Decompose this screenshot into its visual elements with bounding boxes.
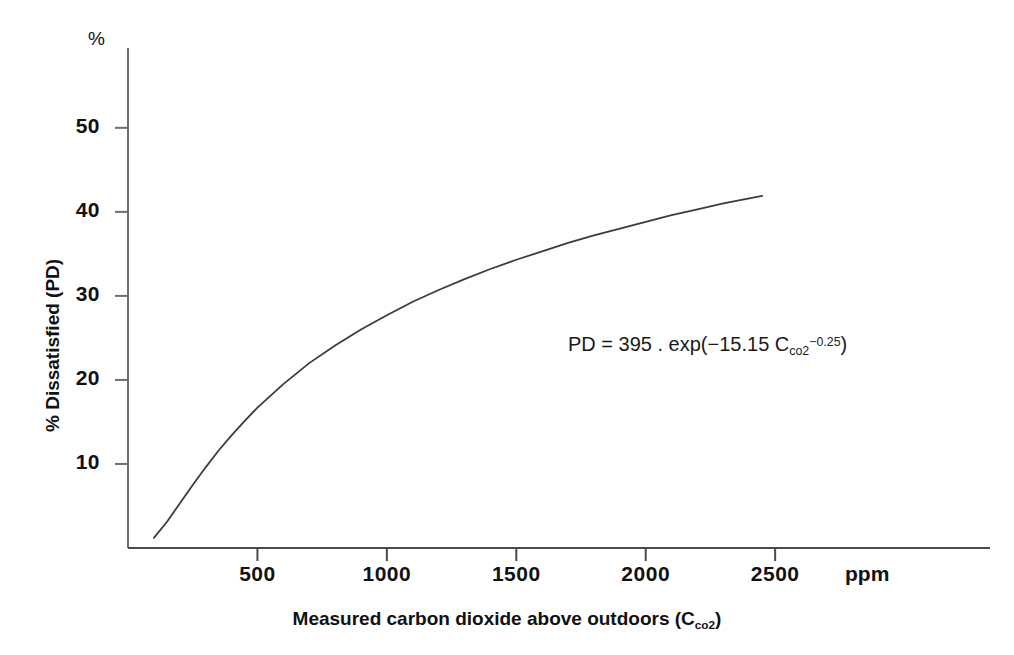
x-axis-title-main: Measured carbon dioxide above outdoors (… [293, 608, 695, 629]
y-axis-tick-marks [115, 128, 128, 464]
x-tick-label: 2000 [586, 562, 706, 586]
x-axis-title-subscript: co2 [695, 618, 715, 631]
x-tick-label: 1500 [456, 562, 576, 586]
x-tick-label: 2500 [715, 562, 835, 586]
equation-annotation: PD = 395 . exp(−15.15 Cco2−0.25) [568, 333, 847, 358]
x-axis-unit-label: ppm [845, 562, 889, 586]
chart-figure: % 10 20 30 40 50 500 1000 1500 2000 2500… [0, 0, 1014, 655]
equation-superscript: −0.25 [809, 335, 840, 349]
x-axis-title: Measured carbon dioxide above outdoors (… [0, 608, 1014, 631]
y-axis-unit-label: % [88, 28, 105, 50]
x-axis-title-tail: ) [715, 608, 721, 629]
x-tick-label: 500 [197, 562, 317, 586]
y-tick-label: 40 [40, 198, 100, 222]
data-series-curve [154, 196, 762, 538]
y-tick-label: 10 [40, 450, 100, 474]
x-axis-tick-marks [257, 548, 775, 561]
equation-tail: ) [841, 333, 848, 355]
equation-lhs: PD = 395 . exp(−15.15 C [568, 333, 789, 355]
chart-canvas [0, 0, 1014, 655]
y-tick-label: 50 [40, 114, 100, 138]
y-axis-title: % Dissatisfied (PD) [42, 259, 64, 432]
x-tick-label: 1000 [327, 562, 447, 586]
equation-subscript: co2 [789, 344, 809, 358]
